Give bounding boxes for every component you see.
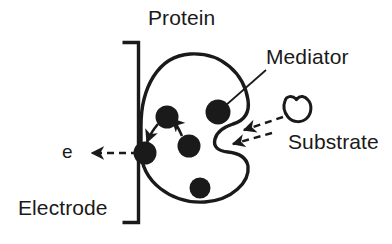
label-electron: e — [62, 142, 73, 161]
label-electrode: Electrode — [18, 197, 108, 218]
label-mediator: Mediator — [266, 46, 349, 67]
mediator-dot-upper-right — [206, 100, 231, 125]
mediator-dot-middle — [178, 135, 201, 158]
substrate-outline — [284, 96, 311, 121]
substrate-binding-arrow-lower — [233, 133, 272, 144]
mediator-dot-bottom — [190, 178, 211, 199]
electrode-bracket — [123, 43, 139, 223]
substrate-binding-arrow-upper — [244, 117, 283, 130]
label-protein: Protein — [148, 7, 215, 28]
label-substrate: Substrate — [288, 131, 379, 152]
figure-root: Protein Mediator Substrate Electrode e — [0, 0, 392, 244]
